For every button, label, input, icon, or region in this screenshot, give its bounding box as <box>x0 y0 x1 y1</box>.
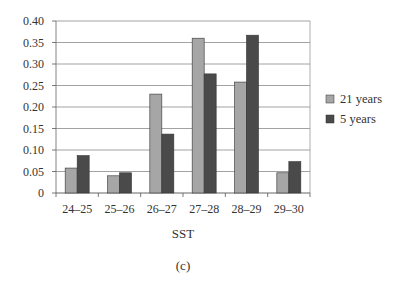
y-tick-label: 0.10 <box>23 143 44 157</box>
bar-5-years <box>289 162 301 193</box>
x-tick-label: 26–27 <box>147 202 177 216</box>
x-tick-label: 27–28 <box>189 202 219 216</box>
y-axis-ticks: 00.050.100.150.200.250.300.350.40 <box>23 14 56 200</box>
legend-label: 21 years <box>340 92 382 106</box>
x-tick-label: 24–25 <box>62 202 92 216</box>
legend-swatch <box>326 115 334 123</box>
x-axis-title: SST <box>172 226 194 241</box>
bar-21-years <box>108 176 120 193</box>
y-tick-label: 0.05 <box>23 165 44 179</box>
x-axis-ticks: 24–2525–2626–2727–2828–2929–30 <box>56 193 310 216</box>
bar-5-years <box>120 173 132 193</box>
bar-5-years <box>247 35 259 193</box>
bars <box>65 35 301 193</box>
bar-21-years <box>277 173 289 193</box>
x-tick-label: 28–29 <box>232 202 262 216</box>
legend-swatch <box>326 95 334 103</box>
y-tick-label: 0.30 <box>23 57 44 71</box>
gridlines <box>56 21 310 172</box>
y-tick-label: 0.15 <box>23 122 44 136</box>
bar-5-years <box>77 156 89 193</box>
y-tick-label: 0.35 <box>23 36 44 50</box>
figure-caption: (c) <box>176 258 190 273</box>
y-tick-label: 0.40 <box>23 14 44 28</box>
bar-21-years <box>150 94 162 193</box>
y-tick-label: 0.25 <box>23 79 44 93</box>
x-tick-label: 25–26 <box>105 202 135 216</box>
bar-21-years <box>235 82 247 193</box>
bar-chart: 00.050.100.150.200.250.300.350.40 24–252… <box>0 0 399 281</box>
bar-5-years <box>162 134 174 193</box>
bar-5-years <box>204 74 216 193</box>
y-tick-label: 0 <box>38 186 44 200</box>
bar-21-years <box>192 38 204 193</box>
bar-21-years <box>65 168 77 193</box>
legend: 21 years5 years <box>326 92 382 126</box>
legend-label: 5 years <box>340 112 376 126</box>
x-tick-label: 29–30 <box>274 202 304 216</box>
y-tick-label: 0.20 <box>23 100 44 114</box>
